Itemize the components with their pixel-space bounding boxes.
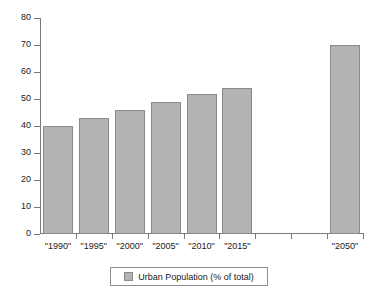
- x-axis-tick: [363, 234, 364, 239]
- x-axis-tick: [148, 234, 149, 239]
- bar: [330, 45, 360, 234]
- y-axis-label: 0: [5, 229, 31, 238]
- y-axis-label: 80: [5, 13, 31, 22]
- bar: [115, 110, 145, 234]
- x-axis-label: "1995": [76, 241, 112, 251]
- x-axis-label: "2015": [219, 241, 255, 251]
- y-axis-label: 30: [5, 148, 31, 157]
- bar: [187, 94, 217, 234]
- bar-chart: 01020304050607080 "1990""1995""2000""200…: [0, 0, 375, 296]
- y-axis-tick: [34, 234, 40, 235]
- y-axis-label: 20: [5, 175, 31, 184]
- x-axis-tick: [219, 234, 220, 239]
- bar: [222, 88, 252, 234]
- x-axis-tick: [255, 234, 256, 239]
- bar: [43, 126, 73, 234]
- bar: [151, 102, 181, 234]
- y-axis-label: 60: [5, 67, 31, 76]
- x-axis-label: "1990": [40, 241, 76, 251]
- x-axis-tick: [327, 234, 328, 239]
- x-axis-label: "2000": [112, 241, 148, 251]
- x-axis-label: "2005": [148, 241, 184, 251]
- x-axis-tick: [112, 234, 113, 239]
- x-axis-label: "2010": [184, 241, 220, 251]
- y-axis-line: [40, 18, 41, 234]
- legend-swatch-icon: [124, 272, 133, 281]
- legend-label: Urban Population (% of total): [138, 272, 254, 282]
- x-axis-tick: [291, 234, 292, 239]
- y-axis-label: 70: [5, 40, 31, 49]
- x-axis-tick: [184, 234, 185, 239]
- x-axis-label: "2050": [327, 241, 363, 251]
- chart-legend: Urban Population (% of total): [110, 267, 268, 286]
- y-axis-label: 40: [5, 121, 31, 130]
- x-axis-tick: [76, 234, 77, 239]
- y-axis-label: 10: [5, 202, 31, 211]
- y-axis-label: 50: [5, 94, 31, 103]
- bar: [79, 118, 109, 234]
